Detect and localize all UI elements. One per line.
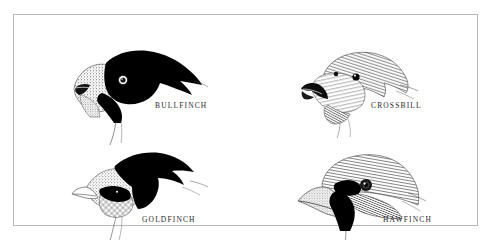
goldfinch-eye — [115, 190, 122, 197]
goldfinch-throat-line-1 — [110, 217, 116, 240]
plate-frame: BULLFINCH — [13, 14, 478, 226]
figure-bullfinch — [66, 37, 206, 129]
crossbill-head-icon — [300, 39, 420, 125]
goldfinch-throat-line-2 — [119, 217, 122, 240]
caption-hawfinch: HAWFINCH — [383, 215, 432, 224]
caption-crossbill: CROSSBILL — [371, 101, 422, 110]
hawfinch-eye-highlight — [364, 183, 366, 185]
caption-goldfinch: GOLDFINCH — [142, 215, 196, 224]
goldfinch-eye-highlight — [116, 191, 118, 193]
crossbill-lower-mandible — [302, 91, 314, 99]
caption-bullfinch: BULLFINCH — [155, 101, 207, 110]
hawfinch-neck-line — [343, 231, 346, 240]
goldfinch-plume-hair-1 — [190, 181, 208, 187]
figure-crossbill — [300, 39, 420, 125]
bullfinch-eye-pupil — [120, 77, 125, 82]
crossbill-neck-line-2 — [348, 119, 350, 137]
crossbill-eye-highlight — [354, 75, 356, 77]
crossbill-far-eye — [334, 72, 339, 77]
goldfinch-plume-hair-2 — [182, 187, 200, 195]
illustration-plate: BULLFINCH — [0, 0, 491, 240]
bullfinch-eye-highlight — [121, 78, 123, 80]
bullfinch-head-icon — [66, 37, 206, 129]
crossbill-eye — [352, 73, 359, 80]
